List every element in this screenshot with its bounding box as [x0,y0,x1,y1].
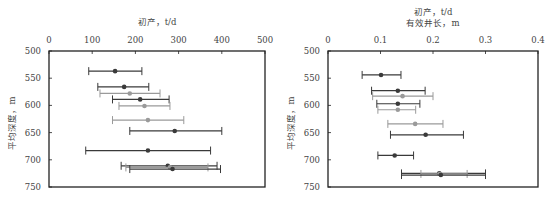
data-point [388,120,443,128]
data-point [113,116,184,124]
y-tick-label: 650 [304,128,320,138]
y-tick-label: 700 [304,155,320,165]
mean-marker [400,94,405,99]
x-tick-label: 0.4 [531,35,545,45]
x-tick-label: 500 [257,35,273,45]
data-point [362,71,401,79]
data-point [100,89,160,97]
mean-marker [413,122,418,127]
mean-marker [127,91,132,96]
plot-frame [328,51,538,187]
y-tick-label: 750 [25,182,41,192]
mean-marker [146,148,151,153]
y-tick-label: 550 [25,73,41,83]
data-point [86,147,211,155]
mean-marker [113,69,118,74]
mean-marker [170,167,175,172]
y-axis-title: 平均深度，m [286,96,296,149]
y-tick-label: 500 [304,46,320,56]
y-tick-label: 500 [25,46,41,56]
mean-marker [396,88,401,93]
mean-marker [396,101,401,106]
data-point [119,102,170,110]
mean-marker [392,153,397,158]
y-tick-label: 600 [304,100,320,110]
mean-marker [396,107,401,112]
x-tick-label: 300 [170,35,186,45]
y-tick-label: 550 [304,73,320,83]
data-point [113,95,170,103]
y-tick-label: 600 [25,100,41,110]
plot-frame [49,51,265,187]
x-tick-label: 0.3 [479,35,493,45]
data-point [402,171,486,179]
mean-marker [138,97,143,102]
mean-marker [146,118,151,123]
mean-marker [172,129,177,134]
data-point [130,127,222,135]
x-tick-label: 0 [46,35,51,45]
mean-marker [142,104,147,109]
data-point [421,170,467,178]
x-tick-label: 100 [84,35,100,45]
x-tick-label: 400 [214,35,230,45]
data-point [373,92,433,100]
x-tick-label: 0 [325,35,330,45]
data-point [378,151,414,159]
data-point [378,106,416,114]
data-point [98,83,149,91]
y-axis-title: 平均深度，m [7,96,17,149]
chart-panel-production-per-length: 00.10.20.30.4500550600650700750初产，t/d有效井… [275,0,549,202]
y-tick-label: 750 [304,182,320,192]
x-tick-label: 0.1 [374,35,388,45]
x-tick-label: 200 [127,35,143,45]
y-tick-label: 650 [25,128,41,138]
mean-marker [122,85,127,90]
data-point [89,67,142,75]
y-tick-label: 700 [25,155,41,165]
data-point [390,131,463,139]
data-point [377,100,420,108]
x-tick-label: 0.2 [426,35,440,45]
data-point [372,87,426,95]
x-axis-title: 初产，t/d [138,17,177,27]
chart-initial-production: 0100200300400500500550600650700750初产，t/d… [0,0,275,202]
x-axis-title: 初产，t/d [414,7,453,17]
chart-panel-initial-production: 0100200300400500500550600650700750初产，t/d… [0,0,275,202]
chart-production-per-length: 00.10.20.30.4500550600650700750初产，t/d有效井… [275,0,549,202]
x-axis-title: 有效井长，m [406,18,459,28]
mean-marker [379,73,384,78]
mean-marker [423,132,428,137]
mean-marker [439,173,444,178]
